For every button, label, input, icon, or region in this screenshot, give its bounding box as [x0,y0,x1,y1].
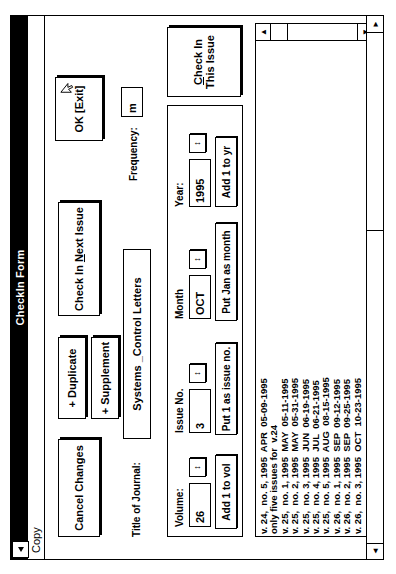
year-field[interactable]: 1995 [189,159,211,207]
volume-spinner[interactable]: ↕ [189,458,206,477]
ok-exit-label: OK [Exit] [73,85,85,132]
year-spinner[interactable]: ↕ [189,134,206,153]
frequency-field[interactable]: m [121,87,143,117]
year-label: Year: [174,183,185,207]
check-in-next-issue-label: Check In Next Issue [73,207,85,311]
list-item[interactable]: v. 26, no. 3, 1995 OCT 10-23-1995 [353,40,363,536]
scroll-up-button[interactable]: ▲ [255,23,271,41]
cancel-changes-button[interactable]: Cancel Changes [58,439,100,537]
put-jan-as-month-button[interactable]: Put Jan as month [215,223,237,321]
title-of-journal-label: Title of Journal: [131,462,142,537]
scanned-page: CheckIn Form Copy Cancel Changes + Dupli… [0,0,396,574]
volume-label: Volume: [174,488,185,527]
window-horizontal-scrollbar[interactable]: ◄ ► [366,16,383,559]
month-field[interactable]: OCT [189,275,211,319]
scroll-left-button[interactable]: ◄ [366,542,384,560]
checkin-form-window: CheckIn Form Copy Cancel Changes + Dupli… [10,15,384,560]
system-menu-icon[interactable] [12,541,29,558]
supplement-button[interactable]: + Supplement [91,337,119,419]
issue-no-spinner[interactable]: ↕ [189,364,206,383]
holdings-listbox[interactable]: v. 24, no. 5, 1995 APR 05-09-1995 only f… [255,39,373,537]
duplicate-button[interactable]: + Duplicate [58,337,86,419]
mouse-cursor-icon [60,80,74,94]
issue-no-field[interactable]: 3 [189,389,211,433]
window-title: CheckIn Form [14,250,26,326]
check-in-this-issue-button[interactable]: Check In This Issue [167,27,241,97]
volume-field[interactable]: 26 [189,483,211,527]
month-label: Month [174,289,185,319]
scroll-right-button[interactable]: ► [366,15,384,33]
issue-no-label: Issue No. [174,389,185,433]
ok-exit-button[interactable]: OK [Exit] [55,77,103,141]
check-in-this-issue-label: Check In This Issue [192,28,216,96]
month-spinner[interactable]: ↕ [189,250,206,269]
menu-item-copy[interactable]: Copy [30,521,42,559]
list-vertical-scrollbar[interactable]: ▲ ▼ [255,23,373,41]
check-in-next-issue-button[interactable]: Check In Next Issue [58,202,100,316]
window-titlebar: CheckIn Form [11,16,28,559]
title-of-journal-field[interactable]: Systems _Control Letters [123,249,151,439]
add-1-to-vol-button[interactable]: Add 1 to vol [215,455,237,529]
frequency-label: Frequency: [128,127,139,181]
add-1-to-yr-button[interactable]: Add 1 to yr [215,137,237,207]
menubar: Copy [28,16,45,559]
put-1-as-issue-no-button[interactable]: Put 1 as issue no. [215,343,237,435]
scroll-thumb[interactable] [270,23,288,41]
horizontal-scroll-thumb[interactable] [366,230,384,544]
